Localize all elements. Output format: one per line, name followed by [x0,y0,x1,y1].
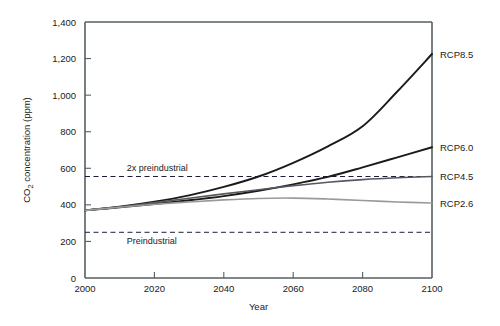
x-tick-label: 2100 [421,283,442,294]
reference-line-label: Preindustrial [127,236,177,246]
x-tick-label: 2000 [74,283,95,294]
y-tick-label: 1,200 [52,53,76,64]
x-tick-label: 2040 [213,283,234,294]
x-axis-ticks: 200020202040206020802100 [74,272,442,294]
series-label-rcp60: RCP6.0 [440,142,473,153]
y-axis-title: CO2 concentration (ppm) [21,97,35,203]
chart-canvas: 02004006008001,0001,2001,400 20002020204… [0,0,500,326]
y-tick-label: 1,000 [52,90,76,101]
x-tick-label: 2020 [144,283,165,294]
series-line-rcp85 [85,54,432,210]
y-tick-label: 600 [60,163,76,174]
series-end-labels: RCP8.5RCP6.0RCP4.5RCP2.6 [440,49,473,209]
x-tick-label: 2080 [352,283,373,294]
co2-concentration-chart: 02004006008001,0001,2001,400 20002020204… [0,0,500,326]
y-tick-label: 800 [60,126,76,137]
series-label-rcp26: RCP2.6 [440,198,473,209]
data-series-lines [85,54,432,210]
series-label-rcp45: RCP4.5 [440,171,473,182]
y-tick-label: 400 [60,199,76,210]
reference-line-label: 2x preindustrial [127,163,188,173]
x-axis-title: Year [249,301,268,312]
x-tick-label: 2060 [283,283,304,294]
y-tick-label: 200 [60,236,76,247]
y-tick-label: 0 [71,273,76,284]
y-tick-label: 1,400 [52,17,76,28]
series-label-rcp85: RCP8.5 [440,49,473,60]
